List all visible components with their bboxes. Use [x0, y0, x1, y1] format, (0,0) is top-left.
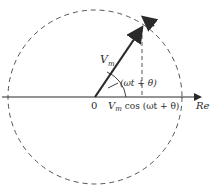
origin-label: 0 — [91, 100, 97, 111]
rotation-arrow — [144, 18, 154, 26]
phasor-diagram: 0 Vm (ωt + θ) Vm cos (ωt + θ) Re — [0, 0, 214, 194]
vector-label: Vm — [100, 53, 115, 68]
axis-label-re: Re — [195, 100, 210, 111]
projection-label: Vm cos (ωt + θ) — [108, 100, 179, 113]
angle-tick — [108, 83, 118, 88]
angle-label: (ωt + θ) — [120, 78, 157, 88]
